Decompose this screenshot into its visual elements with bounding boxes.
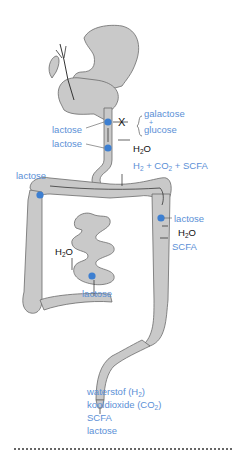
descending-colon <box>142 194 170 346</box>
label-lactose-descending: lactose <box>174 213 204 224</box>
lactose-marker <box>157 214 164 221</box>
lactose-marker <box>104 118 111 125</box>
label-lactose-ascending: lactose <box>16 170 46 181</box>
label-scfa-descending: SCFA <box>172 241 197 252</box>
lactose-marker <box>36 191 43 198</box>
label-lactose-ileum: lactose <box>82 288 112 299</box>
label-water-descending: H2O <box>178 227 196 238</box>
blocked-x-icon: X <box>118 116 126 128</box>
label-lactose-jejunum: lactose <box>52 138 82 149</box>
label-glucose: glucose <box>144 124 177 135</box>
label-fermentation-products: H2 + CO2 + SCFA <box>133 160 208 171</box>
label-excretion-scfa: SCFA <box>87 412 112 423</box>
gallbladder <box>49 56 59 78</box>
label-excretion-co2: kooldioxide (CO2) <box>87 399 161 410</box>
lactose-marker <box>104 144 111 151</box>
dotted-divider <box>14 448 232 450</box>
ascending-colon <box>23 190 42 313</box>
label-excretion-lactose: lactose <box>87 425 117 436</box>
label-lactose-duodenum: lactose <box>52 124 82 135</box>
label-water-ileum: H2O <box>55 246 73 257</box>
label-excretion-hydrogen: waterstof (H2) <box>87 386 145 397</box>
lactose-marker <box>88 272 95 279</box>
label-water-jejunum: H2O <box>133 143 151 154</box>
